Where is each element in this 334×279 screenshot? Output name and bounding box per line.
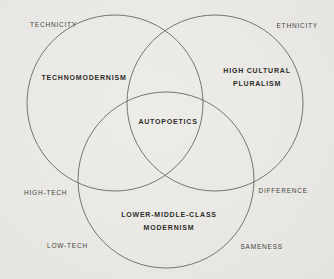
set-label-high-cultural-pluralism: HIGH CULTURAL PLURALISM — [223, 65, 290, 90]
set-label-autopoetics: AUTOPOETICS — [138, 116, 197, 129]
outer-label-difference: DIFFERENCE — [258, 187, 308, 194]
set-label-modernism-line2: MODERNISM — [121, 222, 217, 235]
high-cultural-pluralism-circle — [127, 15, 303, 191]
venn-diagram-page: TECHNICITY ETHNICITY HIGH-TECH DIFFERENC… — [0, 0, 334, 279]
set-label-high-cultural-line1: HIGH CULTURAL — [223, 65, 290, 78]
set-label-technomodernism: TECHNOMODERNISM — [41, 72, 126, 85]
set-label-lower-middle-class-modernism: LOWER-MIDDLE-CLASS MODERNISM — [121, 209, 217, 234]
outer-label-ethnicity: ETHNICITY — [276, 22, 318, 29]
venn-diagram — [0, 0, 334, 279]
outer-label-low-tech: LOW-TECH — [47, 242, 88, 249]
set-label-lower-middle-class-line1: LOWER-MIDDLE-CLASS — [121, 209, 217, 222]
outer-label-sameness: SAMENESS — [240, 243, 283, 250]
outer-label-technicity: TECHNICITY — [30, 21, 77, 28]
technomodernism-circle — [27, 15, 203, 191]
outer-label-high-tech: HIGH-TECH — [24, 189, 67, 196]
set-label-pluralism-line2: PLURALISM — [223, 78, 290, 91]
